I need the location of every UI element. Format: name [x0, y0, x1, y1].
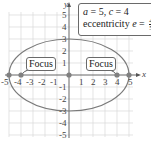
- x-tick: 1: [79, 78, 84, 87]
- y-tick: -2: [59, 95, 67, 104]
- x-tick: -2: [38, 78, 46, 87]
- y-tick: 4: [62, 23, 67, 32]
- info-line-eccentricity: eccentricity e = 45: [83, 18, 151, 31]
- eccentricity-label: eccentricity: [83, 18, 132, 29]
- fraction-denominator: 5: [149, 25, 151, 31]
- x-tick: 4: [115, 78, 120, 87]
- x-tick: -4: [14, 78, 22, 87]
- x-axis-label: x: [142, 69, 146, 79]
- left-focus-label: Focus: [26, 57, 56, 71]
- y-tick: 3: [62, 35, 67, 44]
- center-point: [66, 72, 71, 77]
- y-tick: -3: [59, 107, 67, 116]
- y-tick: 2: [62, 47, 67, 56]
- y-tick: -1: [59, 83, 67, 92]
- x-tick: 3: [103, 78, 108, 87]
- a-value: = 5,: [88, 6, 109, 17]
- x-tick: 5: [128, 78, 133, 87]
- equals-sign: =: [137, 18, 148, 29]
- info-line-parameters: a = 5, c = 4: [83, 6, 151, 18]
- y-tick: 5: [62, 11, 67, 20]
- x-tick: -3: [26, 78, 34, 87]
- y-tick: -5: [59, 131, 67, 140]
- ellipse-info-box: a = 5, c = 4 eccentricity e = 45: [78, 3, 151, 36]
- y-tick: 1: [62, 59, 67, 68]
- y-tick: -4: [59, 119, 67, 128]
- x-tick: -5: [1, 78, 9, 87]
- eccentricity-fraction: 45: [149, 18, 151, 31]
- ellipse-diagram: y x -5 -4 -3 -2 -1 1 2 3 4 5 5 4 3 2 1 -…: [0, 0, 151, 141]
- x-tick: -1: [50, 78, 58, 87]
- right-focus-label: Focus: [86, 57, 116, 71]
- c-value: = 4: [113, 6, 129, 17]
- y-axis-label: y: [64, 0, 68, 9]
- x-tick: 2: [91, 78, 96, 87]
- x-axis-arrow-icon: [136, 73, 141, 77]
